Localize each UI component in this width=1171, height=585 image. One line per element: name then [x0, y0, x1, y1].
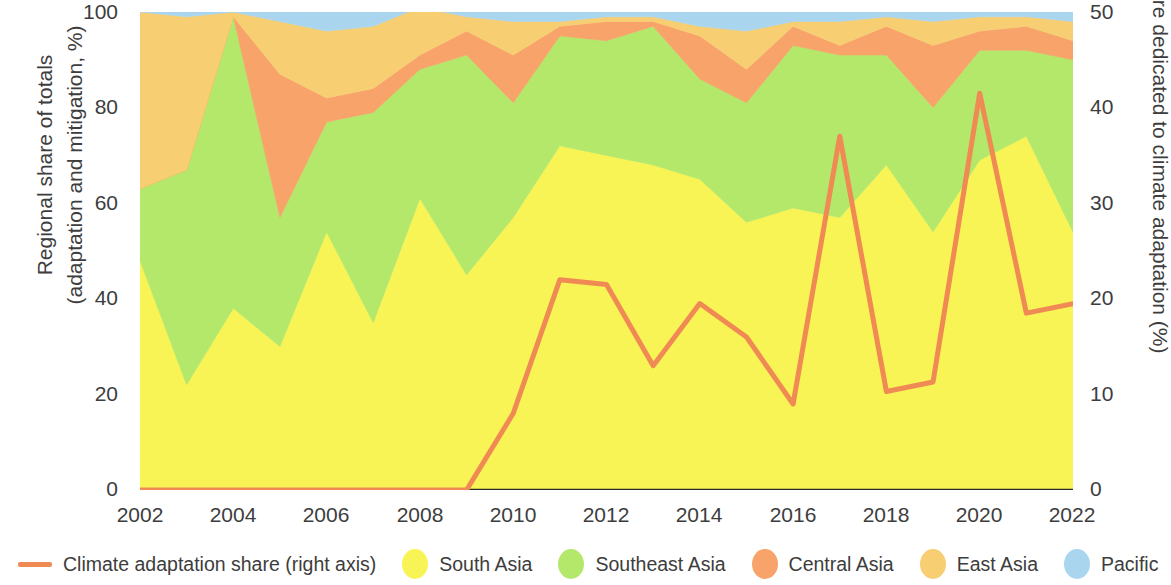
- legend-item-label: Southeast Asia: [595, 553, 725, 576]
- x-tick-2020: 2020: [934, 503, 1024, 527]
- legend-pacific[interactable]: Pacific: [1064, 549, 1171, 579]
- legend-dot-swatch-icon: [558, 549, 584, 579]
- x-tick-2018: 2018: [841, 503, 931, 527]
- x-tick-2004: 2004: [188, 503, 278, 527]
- y-axis-right-title: Share dedicated to climate adaptation (%…: [1147, 0, 1171, 388]
- legend-item-label: Pacific: [1101, 553, 1158, 576]
- legend-southeast-asia[interactable]: Southeast Asia: [558, 549, 751, 579]
- x-tick-2016: 2016: [748, 503, 838, 527]
- stacked-area-chart-svg: [140, 12, 1073, 490]
- x-tick-2022: 2022: [1027, 503, 1117, 527]
- y-right-tick-30: 30: [1090, 191, 1150, 215]
- legend-climate-adaptation-share[interactable]: Climate adaptation share (right axis): [18, 553, 402, 576]
- y-right-tick-0: 0: [1090, 477, 1150, 501]
- y-right-tick-20: 20: [1090, 286, 1150, 310]
- legend-east-asia[interactable]: East Asia: [920, 549, 1064, 579]
- x-tick-2006: 2006: [281, 503, 371, 527]
- x-tick-2008: 2008: [375, 503, 465, 527]
- legend-item-label: Climate adaptation share (right axis): [63, 553, 376, 576]
- y-right-tick-10: 10: [1090, 382, 1150, 406]
- y-left-tick-100: 100: [58, 0, 118, 24]
- x-tick-2002: 2002: [95, 503, 185, 527]
- legend-dot-swatch-icon: [402, 549, 428, 579]
- legend-item-label: Central Asia: [789, 553, 894, 576]
- x-tick-2010: 2010: [468, 503, 558, 527]
- y-left-tick-80: 80: [58, 95, 118, 119]
- x-tick-2012: 2012: [561, 503, 651, 527]
- x-tick-2014: 2014: [654, 503, 744, 527]
- legend-dot-swatch-icon: [920, 549, 946, 579]
- chart-legend: Climate adaptation share (right axis)Sou…: [18, 548, 1171, 580]
- plot-area: [140, 12, 1073, 490]
- legend-item-label: East Asia: [957, 553, 1038, 576]
- y-left-tick-60: 60: [58, 191, 118, 215]
- legend-item-label: South Asia: [439, 553, 532, 576]
- y-left-tick-40: 40: [58, 286, 118, 310]
- legend-dot-swatch-icon: [752, 549, 778, 579]
- y-left-tick-20: 20: [58, 382, 118, 406]
- legend-central-asia[interactable]: Central Asia: [752, 549, 920, 579]
- legend-line-swatch-icon: [18, 562, 52, 567]
- y-right-tick-40: 40: [1090, 95, 1150, 119]
- legend-dot-swatch-icon: [1064, 549, 1090, 579]
- y-right-tick-50: 50: [1090, 0, 1150, 24]
- y-left-tick-0: 0: [58, 477, 118, 501]
- chart-figure: Regional share of totals (adaptation and…: [0, 0, 1171, 585]
- legend-south-asia[interactable]: South Asia: [402, 549, 558, 579]
